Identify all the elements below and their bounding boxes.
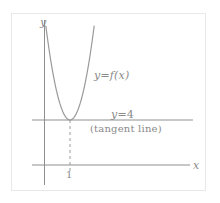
tangent-line-note: (tangent line) <box>90 124 162 134</box>
tangent-label-number: 4 <box>127 108 134 121</box>
curve-label-fx: f(x) <box>110 69 130 82</box>
curve-label-equals: = <box>100 69 109 82</box>
x-tick-label-1: 1 <box>66 170 73 180</box>
figure-root: y x y=f(x) y=4 (tangent line) 1 <box>0 0 220 203</box>
curve-equation-label: y=f(x) <box>94 70 130 81</box>
plot-canvas <box>0 0 220 203</box>
x-axis-label: x <box>193 160 199 171</box>
tangent-value-label: y=4 <box>111 109 134 120</box>
tangent-label-equals: = <box>117 108 126 121</box>
y-axis-label: y <box>40 17 46 28</box>
parabola-curve <box>46 26 94 120</box>
